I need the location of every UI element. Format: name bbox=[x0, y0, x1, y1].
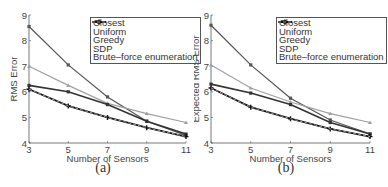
x-tick-label: 3 bbox=[26, 144, 31, 155]
y-tick-label: 7 bbox=[22, 61, 27, 72]
legend-item: Brute–force enumeration bbox=[93, 53, 198, 62]
series-greedy bbox=[209, 83, 371, 136]
chart-panel-b: 456789357911Number of SensorsExpected RM… bbox=[194, 0, 388, 187]
chart-panel-a: 456789357911Number of SensorsRMS Error C… bbox=[0, 0, 194, 187]
legend-b: ClosestUniformGreedySDPBrute–force enume… bbox=[276, 17, 387, 64]
series-sdp bbox=[209, 85, 373, 139]
legend-a: ClosestUniformGreedySDPBrute–force enume… bbox=[90, 17, 201, 64]
y-axis-label: Expected RMS Error bbox=[194, 35, 201, 122]
y-tick-label: 6 bbox=[22, 86, 27, 97]
y-tick-label: 5 bbox=[22, 112, 27, 123]
legend-swatch-icon bbox=[91, 18, 107, 26]
y-tick-label: 6 bbox=[204, 86, 209, 97]
legend-swatch-icon bbox=[277, 18, 293, 26]
legend-label: Brute–force enumeration bbox=[93, 53, 198, 62]
x-tick-label: 11 bbox=[181, 144, 191, 155]
y-axis-label: RMS Error bbox=[8, 57, 19, 102]
y-tick-label: 9 bbox=[204, 10, 209, 21]
y-tick-label: 5 bbox=[204, 112, 209, 123]
series-uniform bbox=[209, 63, 372, 124]
y-tick-label: 8 bbox=[22, 35, 27, 46]
legend-label: Brute–force enumeration bbox=[279, 53, 384, 62]
y-tick-label: 9 bbox=[22, 10, 27, 21]
caption-b: (b) bbox=[266, 160, 306, 176]
legend-item: Brute–force enumeration bbox=[279, 53, 384, 62]
x-tick-label: 11 bbox=[365, 144, 375, 155]
y-tick-label: 8 bbox=[204, 35, 209, 46]
caption-a: (a) bbox=[83, 160, 123, 176]
series-brute-force-enumeration bbox=[211, 88, 370, 137]
x-tick-label: 3 bbox=[208, 144, 213, 155]
y-tick-label: 7 bbox=[204, 61, 209, 72]
